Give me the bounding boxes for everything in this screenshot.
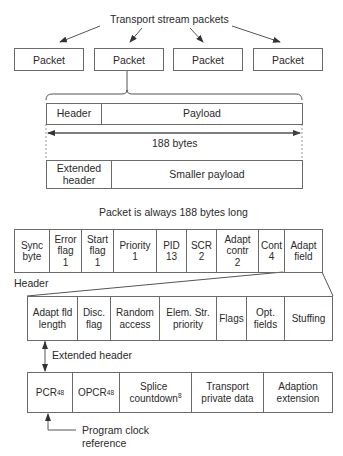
field-adapt-fld-length: Adapt fld length [28, 297, 77, 340]
pcr-bits: 48 [57, 387, 64, 399]
header-cell: Header [47, 104, 101, 124]
smaller-payload-cell: Smaller payload [111, 161, 302, 188]
field-transport-private-data: Transport private data [191, 373, 263, 412]
field-cont: Cont 4 [258, 230, 284, 272]
pcr-note: Program clock reference [82, 424, 149, 450]
field-splice-countdown: Splice countdown8 [119, 373, 191, 412]
field-disc-flag: Disc. flag [77, 297, 110, 340]
field-priority: Priority 1 [113, 230, 156, 272]
field-stuffing: Stuffing [284, 297, 332, 340]
diagram-title: Transport stream packets [110, 13, 229, 25]
extended-packet-layout: Extended header Smaller payload [46, 160, 303, 189]
optional-fields-row: PCR48 OPCR48 Splice countdown8 Transport… [27, 372, 333, 413]
payload-cell: Payload [101, 104, 302, 124]
header-label: Header [14, 277, 48, 289]
field-scr: SCR 2 [186, 230, 216, 272]
field-adaption-extension: Adaption extension [263, 373, 332, 412]
splice-countdown-bits: 8 [178, 390, 182, 402]
field-elem-str-priority: Elem. Str. priority [159, 297, 216, 340]
packet-4: Packet [253, 48, 323, 71]
extended-header-label: Extended header [52, 349, 132, 361]
adaptation-fields-row: Adapt fld length Disc. flag Random acces… [27, 296, 333, 341]
pcr-label: PCR [36, 387, 57, 399]
header-fields-row: Sync byte Error flag 1 Start flag 1 Prio… [14, 229, 323, 273]
packet-size-caption: Packet is always 188 bytes long [99, 206, 248, 218]
packet-2: Packet [94, 48, 164, 71]
field-opt-fields: Opt. fields [246, 297, 284, 340]
packet-layout: Header Payload [46, 103, 303, 125]
field-error-flag: Error flag 1 [49, 230, 81, 272]
field-start-flag: Start flag 1 [81, 230, 113, 272]
field-adapt-contr: Adapt contr 2 [216, 230, 258, 272]
field-opcr: OPCR48 [72, 373, 119, 412]
packet-3: Packet [173, 48, 243, 71]
opcr-label: OPCR [78, 387, 107, 399]
field-pcr: PCR48 [28, 373, 72, 412]
field-pid: PID 13 [156, 230, 186, 272]
field-random-access: Random access [110, 297, 159, 340]
extended-header-cell: Extended header [47, 161, 111, 188]
opcr-bits: 48 [107, 387, 114, 399]
field-adapt-field: Adapt field [284, 230, 322, 272]
field-flags: Flags [216, 297, 246, 340]
splice-countdown-label: Splice countdown [130, 381, 178, 404]
size-label: 188 bytes [152, 137, 198, 149]
packet-1: Packet [14, 48, 84, 71]
field-sync-byte: Sync byte [15, 230, 49, 272]
